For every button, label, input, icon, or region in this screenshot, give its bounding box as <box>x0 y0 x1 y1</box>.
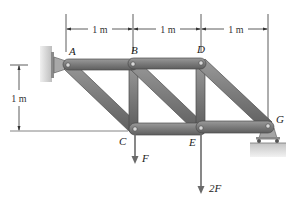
dimension-label-bd: 1 m <box>160 24 176 35</box>
node-label-c: C <box>119 135 127 147</box>
pin-e <box>199 126 203 130</box>
load-label-f: F <box>141 152 149 164</box>
node-label-d: D <box>196 43 205 55</box>
member-ce <box>129 123 206 135</box>
node-label-b: B <box>131 44 138 56</box>
node-label-g: G <box>276 113 284 125</box>
member-ab <box>63 59 138 70</box>
member-dg <box>197 59 272 130</box>
member-eg <box>196 121 274 133</box>
pin-c <box>133 127 137 131</box>
member-be <box>129 60 205 133</box>
pin-g <box>266 124 270 128</box>
load-label-2f: 2F <box>209 182 222 194</box>
pin-a <box>66 63 70 67</box>
dimension-label-ab: 1 m <box>92 24 108 35</box>
dimension-label-dg: 1 m <box>228 24 244 35</box>
truss-diagram: 1 m 1 m 1 m 1 m <box>0 0 298 202</box>
node-label-a: A <box>68 45 76 57</box>
pin-d <box>199 61 203 65</box>
member-ac <box>64 61 139 133</box>
member-bd <box>128 58 206 69</box>
node-label-e: E <box>188 136 196 148</box>
wall-support <box>40 46 66 82</box>
pin-b <box>131 62 135 66</box>
dimension-label-height: 1 m <box>11 93 27 104</box>
